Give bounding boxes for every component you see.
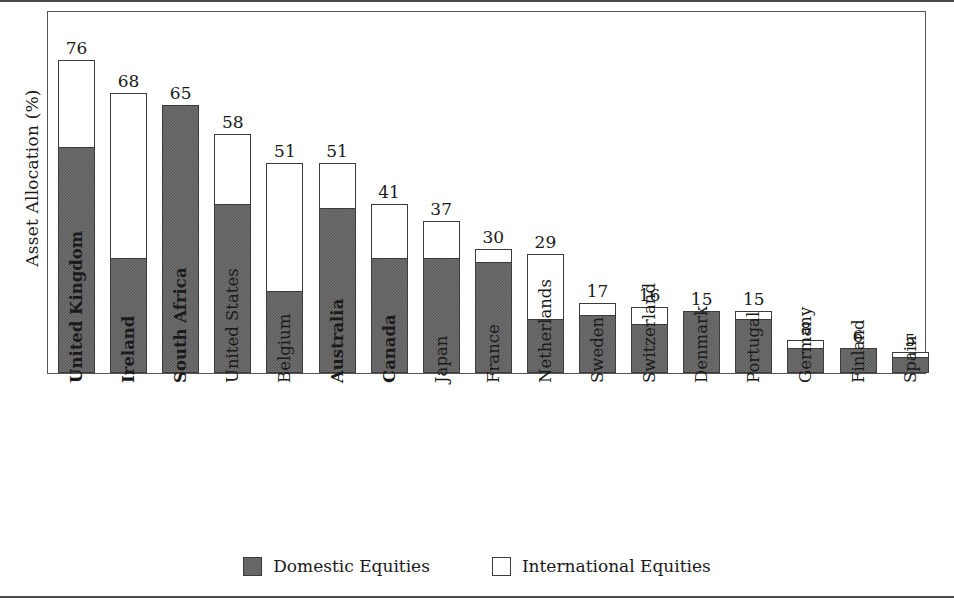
category-label-text: Spain <box>892 346 929 383</box>
category-label-text: United Kingdom <box>58 346 95 383</box>
bar-segment-international <box>214 134 251 205</box>
bar-segment-international <box>319 163 356 209</box>
bar-value-label: 29 <box>518 233 573 251</box>
bar-segment-international <box>110 93 147 259</box>
domestic-swatch-icon <box>243 557 262 576</box>
legend-label-international: International Equities <box>522 556 711 576</box>
bar-value-label: 41 <box>362 183 417 201</box>
bar-segment-international <box>423 221 460 259</box>
category-label-text: Denmark <box>683 346 720 383</box>
category-label: Australia <box>319 383 356 420</box>
chart-figure: Asset Allocation (%) 7668655851514137302… <box>0 0 954 615</box>
y-axis-title: Asset Allocation (%) <box>22 48 42 308</box>
legend-item-international: International Equities <box>492 556 711 576</box>
bar-value-label: 37 <box>414 200 469 218</box>
category-label: Canada <box>371 383 408 420</box>
bar-value-label: 51 <box>257 142 312 160</box>
category-label-text: France <box>475 346 512 383</box>
bar-segment-international <box>579 303 616 316</box>
category-label: Belgium <box>266 383 303 420</box>
chart-legend: Domestic Equities International Equities <box>0 556 954 576</box>
figure-bottom-rule <box>0 596 954 598</box>
bar-value-label: 68 <box>101 72 156 90</box>
category-label-text: Finland <box>840 346 877 383</box>
legend-item-domestic: Domestic Equities <box>243 556 430 576</box>
category-label-text: South Africa <box>162 346 199 383</box>
category-label-text: Germany <box>787 346 824 383</box>
bar-value-label: 15 <box>726 290 781 308</box>
category-label: Ireland <box>110 383 147 420</box>
category-label: Germany <box>787 383 824 420</box>
category-label: Switzerland <box>631 383 668 420</box>
category-label-text: Sweden <box>579 346 616 383</box>
category-label: France <box>475 383 512 420</box>
category-label: United Kingdom <box>58 383 95 420</box>
bar-value-label: 17 <box>570 282 625 300</box>
bar-segment-international <box>266 163 303 292</box>
category-label: Portugal <box>735 383 772 420</box>
bar-segment-international <box>371 204 408 259</box>
category-label-text: United States <box>214 346 251 383</box>
category-label: Netherlands <box>527 383 564 420</box>
category-label-text: Japan <box>423 346 460 383</box>
bar-segment-international <box>475 249 512 262</box>
category-label-text: Belgium <box>266 346 303 383</box>
international-swatch-icon <box>492 557 511 576</box>
category-label: Sweden <box>579 383 616 420</box>
category-label: Spain <box>892 383 929 420</box>
figure-top-rule <box>0 0 954 2</box>
category-label-text: Netherlands <box>527 346 564 383</box>
category-label-text: Canada <box>371 346 408 383</box>
category-label-text: Portugal <box>735 346 772 383</box>
bar-segment-international <box>58 60 95 147</box>
category-label: Finland <box>840 383 877 420</box>
category-label: Denmark <box>683 383 720 420</box>
category-label: Japan <box>423 383 460 420</box>
bar-value-label: 58 <box>205 113 260 131</box>
bar-value-label: 51 <box>310 142 365 160</box>
category-label-text: Switzerland <box>631 346 668 383</box>
category-label-text: Australia <box>319 346 356 383</box>
category-label: United States <box>214 383 251 420</box>
category-label-text: Ireland <box>110 346 147 383</box>
bar-value-label: 76 <box>49 39 104 57</box>
bar-value-label: 65 <box>153 84 208 102</box>
legend-label-domestic: Domestic Equities <box>273 556 430 576</box>
category-label: South Africa <box>162 383 199 420</box>
bar-value-label: 30 <box>466 228 521 246</box>
